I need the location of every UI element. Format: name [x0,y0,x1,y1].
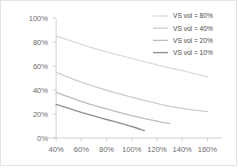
y-tick-label: 60% [33,62,48,71]
legend-label-2: VS vol = 20% [173,37,213,44]
series-line-2 [56,92,169,123]
y-tick-label: 40% [33,86,48,95]
x-tick-label: 160% [198,145,218,154]
series-line-3 [56,104,144,130]
x-axis-tick-marks [56,138,207,142]
y-tick-label: 100% [29,14,49,23]
y-tick-label: 20% [33,110,48,119]
series-line-1 [56,72,207,112]
x-tick-label: 80% [99,145,114,154]
line-chart: 0%20%40%60%80%100% 40%60%80%100%120%140%… [1,1,238,167]
y-axis-tick-labels: 0%20%40%60%80%100% [29,14,49,143]
x-tick-label: 40% [49,145,64,154]
legend-label-0: VS vol = 80% [173,12,213,19]
y-tick-label: 80% [33,38,48,47]
x-tick-label: 60% [74,145,89,154]
legend-label-1: VS vol = 40% [173,25,213,32]
chart-container: 0%20%40%60%80%100% 40%60%80%100%120%140%… [0,0,237,166]
legend-label-3: VS vol = 10% [173,49,213,56]
chart-legend: VS vol = 80%VS vol = 40%VS vol = 20%VS v… [153,12,213,56]
x-tick-label: 100% [122,145,142,154]
x-axis-tick-labels: 40%60%80%100%120%140%160% [49,145,218,154]
x-tick-label: 140% [172,145,192,154]
x-tick-label: 120% [147,145,167,154]
